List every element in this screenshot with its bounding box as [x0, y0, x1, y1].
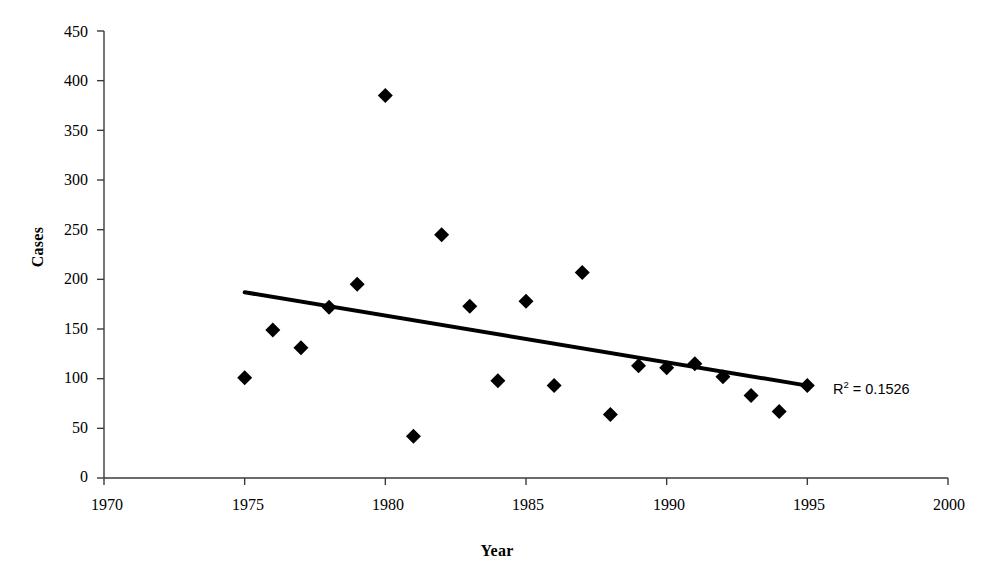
data-point-marker: [519, 294, 534, 309]
data-point-group: [237, 88, 815, 444]
data-point-marker: [406, 429, 421, 444]
data-point-marker: [575, 265, 590, 280]
data-point-marker: [547, 378, 562, 393]
plot-area: [0, 0, 994, 580]
data-point-marker: [744, 388, 759, 403]
data-point-marker: [490, 373, 505, 388]
y-axis-ticks: [97, 31, 104, 478]
data-point-marker: [603, 407, 618, 422]
scatter-chart: Cases Year 450 400 350 300 250 200 150 1…: [0, 0, 994, 580]
data-point-marker: [462, 299, 477, 314]
data-point-marker: [378, 88, 393, 103]
data-point-marker: [800, 378, 815, 393]
data-point-marker: [265, 322, 280, 337]
data-point-marker: [772, 404, 787, 419]
data-point-marker: [350, 277, 365, 292]
x-axis-ticks: [104, 478, 948, 485]
data-point-marker: [237, 370, 252, 385]
data-point-marker: [434, 227, 449, 242]
data-point-marker: [293, 340, 308, 355]
data-point-marker: [322, 300, 337, 315]
